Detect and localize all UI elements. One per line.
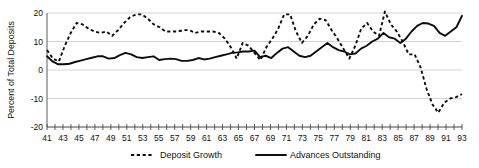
- y-axis-tick-label: -10: [31, 94, 44, 104]
- y-axis-title: Percent of Total Deposits: [6, 21, 16, 119]
- x-axis-tick-label: 75: [314, 133, 324, 143]
- x-axis-tick-label: 51: [122, 133, 132, 143]
- x-axis-tick-label: 93: [457, 133, 467, 143]
- x-axis-tick-label: 65: [234, 133, 244, 143]
- x-axis-tick-label: 43: [58, 133, 68, 143]
- y-axis-tick-label: 0: [38, 65, 43, 75]
- line-chart: 20100-10-20 4143454749515355575961636567…: [0, 0, 479, 168]
- x-axis-tick-label: 79: [346, 133, 356, 143]
- x-axis-tick-label: 59: [186, 133, 196, 143]
- x-axis-tick-label: 49: [106, 133, 116, 143]
- x-axis-tick-label: 83: [377, 133, 387, 143]
- x-axis-tick-label: 91: [441, 133, 451, 143]
- x-axis-tick-label: 45: [74, 133, 84, 143]
- legend-label-advances-outstanding: Advances Outstanding: [290, 150, 381, 160]
- y-axis-tick-label: 20: [34, 8, 44, 18]
- chart-screenshot: 20100-10-20 4143454749515355575961636567…: [0, 0, 479, 168]
- x-axis-tick-label: 81: [361, 133, 371, 143]
- y-axis-tick-label: -20: [31, 122, 44, 132]
- y-axis-tick-label: 10: [34, 37, 44, 47]
- x-axis-tick-label: 53: [138, 133, 148, 143]
- x-axis-tick-label: 73: [298, 133, 308, 143]
- x-axis-tick-label: 41: [42, 133, 52, 143]
- x-axis-tick-label: 47: [90, 133, 100, 143]
- x-axis-tick-label: 63: [218, 133, 228, 143]
- x-axis-tick-label: 71: [282, 133, 292, 143]
- x-axis-tick-label: 67: [250, 133, 260, 143]
- x-axis-tick-label: 77: [330, 133, 340, 143]
- legend-label-deposit-growth: Deposit Growth: [160, 150, 222, 160]
- x-axis-tick-label: 87: [409, 133, 419, 143]
- x-axis-tick-label: 69: [266, 133, 276, 143]
- x-axis-tick-label: 89: [425, 133, 435, 143]
- x-axis-tick-label: 55: [154, 133, 164, 143]
- x-axis-tick-label: 57: [170, 133, 180, 143]
- x-axis-tick-label: 85: [393, 133, 403, 143]
- x-axis-tick-label: 61: [202, 133, 212, 143]
